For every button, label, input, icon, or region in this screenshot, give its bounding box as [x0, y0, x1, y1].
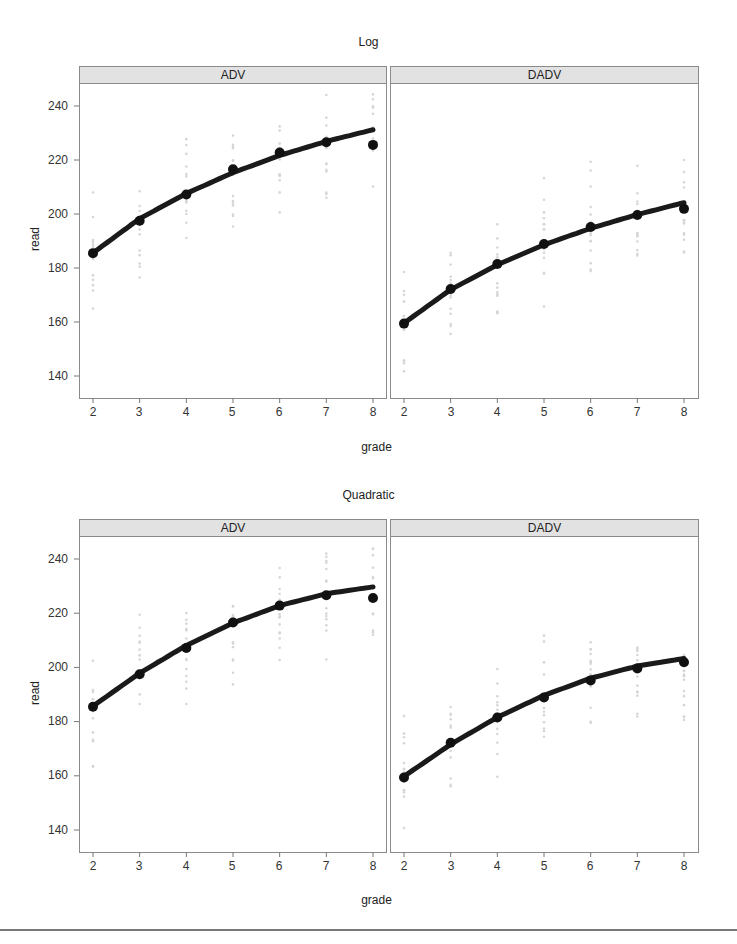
plot-area-quadratic [0, 0, 737, 944]
mean-point [368, 593, 378, 603]
mean-point [679, 657, 689, 667]
mean-point [586, 675, 596, 685]
mean-point [492, 713, 502, 723]
mean-point [446, 738, 456, 748]
mean-point [539, 692, 549, 702]
figure-quadratic: Quadratic ADV DADV read grade 240 220 20… [0, 0, 737, 944]
mean-point [275, 601, 285, 611]
mean-point [135, 669, 145, 679]
mean-point [632, 663, 642, 673]
mean-point [228, 617, 238, 627]
caption-rule [0, 929, 737, 931]
mean-point [321, 590, 331, 600]
fitted-curve-dadv [404, 659, 684, 777]
mean-point [399, 772, 409, 782]
mean-point [181, 643, 191, 653]
figure-caption [30, 936, 730, 944]
mean-point [88, 702, 98, 712]
